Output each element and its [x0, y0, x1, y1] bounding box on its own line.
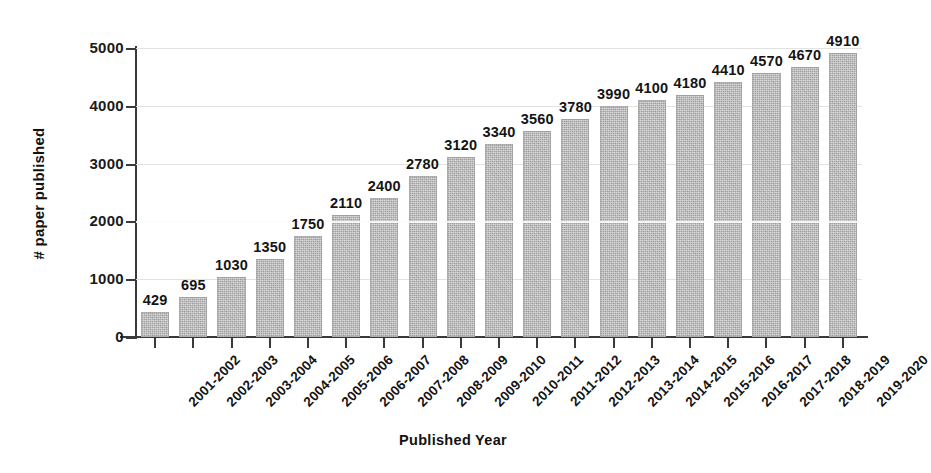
x-tick-mark [231, 337, 233, 348]
bar [447, 157, 475, 337]
y-tick-label-4000: 4000 [89, 97, 124, 114]
y-tick-label-1000: 1000 [89, 270, 124, 287]
bar [256, 259, 284, 337]
bar [638, 100, 666, 337]
bar [523, 131, 551, 337]
bar-value-label: 2780 [395, 156, 451, 172]
x-tick-mark [689, 337, 691, 348]
bar [141, 312, 169, 337]
y-axis-title: # paper published [30, 94, 47, 294]
bar [485, 144, 513, 337]
x-tick-mark [498, 337, 500, 348]
y-tick-label-5000: 5000 [89, 39, 124, 56]
x-tick-mark [154, 337, 156, 348]
x-tick-mark [269, 337, 271, 348]
x-tick-mark [574, 337, 576, 348]
bar-value-label: 695 [165, 277, 221, 293]
y-tick-label-0: 0 [115, 328, 124, 345]
x-tick-mark [383, 337, 385, 348]
x-tick-mark [345, 337, 347, 348]
bar [294, 236, 322, 337]
plot-area [136, 48, 862, 337]
bar-value-label: 1750 [280, 216, 336, 232]
x-tick-mark [765, 337, 767, 348]
gridline-5000 [136, 48, 862, 49]
bar [332, 215, 360, 337]
x-tick-mark [651, 337, 653, 348]
bar [217, 277, 245, 337]
x-tick-mark [307, 337, 309, 348]
bar [600, 106, 628, 337]
x-tick-mark [804, 337, 806, 348]
y-tick-label-2000: 2000 [89, 212, 124, 229]
bar-value-label: 4910 [815, 33, 871, 49]
bar [561, 119, 589, 337]
bar [370, 198, 398, 337]
x-tick-mark [422, 337, 424, 348]
y-tick-mark-0 [126, 337, 137, 339]
bar-value-label: 1030 [204, 257, 260, 273]
bar-value-label: 2400 [356, 178, 412, 194]
y-tick-label-3000: 3000 [89, 155, 124, 172]
bar [791, 67, 819, 337]
bar-value-label: 429 [127, 292, 183, 308]
bar [714, 82, 742, 337]
bar-value-label: 2110 [318, 195, 374, 211]
x-tick-mark [536, 337, 538, 348]
x-tick-mark [842, 337, 844, 348]
x-tick-mark [727, 337, 729, 348]
bar [179, 297, 207, 337]
bar-value-label: 1350 [242, 239, 298, 255]
bar [676, 95, 704, 337]
x-tick-mark [460, 337, 462, 348]
bar [409, 176, 437, 337]
bar [752, 73, 780, 337]
bar [829, 53, 857, 337]
x-tick-mark [192, 337, 194, 348]
x-axis-title: Published Year [0, 432, 906, 448]
x-tick-mark [613, 337, 615, 348]
bar-value-label: 4670 [777, 47, 833, 63]
